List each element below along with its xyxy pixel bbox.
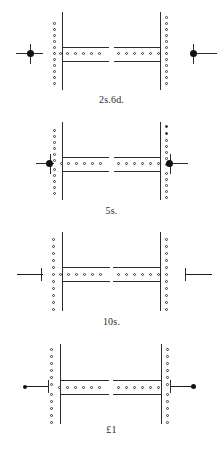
horizontal-rule-upper bbox=[114, 47, 160, 48]
figure-stage bbox=[0, 336, 223, 424]
perf-hole bbox=[133, 162, 136, 165]
perf-hole bbox=[53, 22, 56, 25]
perf-hole bbox=[53, 180, 56, 183]
perf-hole bbox=[53, 64, 56, 67]
row-caption: 5s. bbox=[0, 205, 223, 216]
marker-tick-icon bbox=[185, 268, 186, 281]
perf-hole bbox=[165, 139, 168, 142]
perf-hole bbox=[133, 273, 136, 276]
perf-hole bbox=[165, 287, 168, 290]
perf-hole bbox=[149, 162, 152, 165]
perf-hole bbox=[166, 383, 169, 386]
marker-lead-line bbox=[26, 386, 48, 387]
perf-hole bbox=[125, 386, 128, 389]
marker-tick-icon bbox=[41, 268, 42, 281]
horizontal-rule-lower bbox=[63, 171, 109, 172]
perf-hole bbox=[52, 273, 55, 276]
perf-hole bbox=[66, 52, 69, 55]
perf-hole bbox=[117, 162, 120, 165]
vertical-rule bbox=[62, 232, 63, 311]
perf-hole bbox=[165, 40, 168, 43]
perf-hole bbox=[165, 280, 168, 283]
marker-dot-icon bbox=[46, 160, 53, 167]
perf-hole bbox=[98, 386, 101, 389]
perf-hole bbox=[74, 52, 77, 55]
perf-hole bbox=[52, 266, 55, 269]
horizontal-rule-lower bbox=[114, 61, 160, 62]
perf-hole bbox=[165, 145, 168, 148]
vertical-rule bbox=[60, 344, 61, 424]
perf-hole bbox=[52, 294, 55, 297]
perf-hole bbox=[53, 58, 56, 61]
figure-stage bbox=[0, 117, 223, 205]
perf-hole bbox=[99, 162, 102, 165]
perf-hole bbox=[165, 58, 168, 61]
perf-hole bbox=[165, 196, 168, 199]
figure-row-10s: 10s. bbox=[0, 228, 223, 316]
perf-hole bbox=[53, 52, 56, 55]
figure-row-5s: 5s. bbox=[0, 117, 223, 205]
perf-hole bbox=[52, 301, 55, 304]
figure-stage bbox=[0, 228, 223, 316]
perf-hole bbox=[133, 52, 136, 55]
marker-bar bbox=[186, 274, 212, 275]
perf-hole bbox=[83, 162, 86, 165]
horizontal-rule-lower bbox=[113, 281, 160, 282]
perf-hole bbox=[165, 70, 168, 73]
perf-hole bbox=[66, 386, 69, 389]
perf-hole-filled bbox=[165, 132, 168, 135]
perf-hole bbox=[83, 273, 86, 276]
figure-row-2s6d: 2s.6d. bbox=[0, 6, 223, 94]
marker-dot-icon bbox=[166, 160, 173, 167]
horizontal-rule-upper bbox=[61, 380, 109, 381]
perf-hole bbox=[166, 348, 169, 351]
perf-hole bbox=[165, 178, 168, 181]
perf-hole bbox=[166, 414, 169, 417]
perf-hole bbox=[125, 52, 128, 55]
perf-hole bbox=[52, 308, 55, 311]
perf-hole bbox=[125, 273, 128, 276]
perf-hole bbox=[53, 82, 56, 85]
perf-hole bbox=[99, 273, 102, 276]
perf-hole bbox=[165, 238, 168, 241]
perf-hole bbox=[165, 245, 168, 248]
perf-hole bbox=[52, 245, 55, 248]
perf-hole-filled bbox=[165, 125, 168, 128]
perf-hole bbox=[53, 168, 56, 171]
perf-hole bbox=[166, 355, 169, 358]
vertical-rule bbox=[62, 12, 63, 90]
perf-hole bbox=[53, 76, 56, 79]
perf-hole bbox=[141, 52, 144, 55]
perf-hole bbox=[165, 294, 168, 297]
perf-hole bbox=[53, 159, 56, 162]
perf-hole bbox=[53, 40, 56, 43]
perf-hole bbox=[50, 400, 53, 403]
row-caption: 2s.6d. bbox=[0, 94, 223, 105]
perf-hole bbox=[82, 52, 85, 55]
perf-hole bbox=[117, 52, 120, 55]
perf-hole bbox=[52, 238, 55, 241]
perf-hole bbox=[165, 82, 168, 85]
horizontal-rule-upper bbox=[63, 157, 109, 158]
marker-dot-icon bbox=[27, 50, 34, 57]
perf-hole bbox=[50, 355, 53, 358]
perf-hole bbox=[117, 273, 120, 276]
perf-hole bbox=[165, 308, 168, 311]
perf-hole bbox=[74, 386, 77, 389]
vertical-rule bbox=[62, 122, 63, 200]
perf-hole bbox=[125, 162, 128, 165]
perf-hole bbox=[133, 386, 136, 389]
perf-hole bbox=[166, 376, 169, 379]
perf-hole bbox=[67, 162, 70, 165]
perf-hole bbox=[165, 28, 168, 31]
row-caption: £1 bbox=[0, 424, 223, 435]
perf-hole bbox=[165, 172, 168, 175]
perf-hole bbox=[52, 280, 55, 283]
perf-hole bbox=[165, 151, 168, 154]
perf-hole bbox=[141, 273, 144, 276]
perf-hole bbox=[50, 414, 53, 417]
perf-hole bbox=[50, 393, 53, 396]
perf-hole bbox=[149, 52, 152, 55]
perf-hole bbox=[141, 162, 144, 165]
perf-hole bbox=[52, 252, 55, 255]
